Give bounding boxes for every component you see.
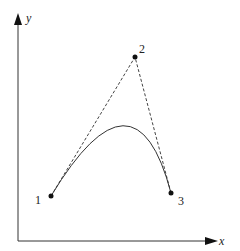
point-1-label: 1: [35, 193, 41, 207]
x-axis-arrowhead-icon: [205, 237, 218, 245]
y-axis-arrowhead-icon: [14, 13, 22, 25]
bezier-curve: [51, 126, 171, 196]
point-2-label: 2: [139, 42, 145, 56]
x-axis-label: x: [218, 234, 225, 248]
point-3-label: 3: [178, 194, 184, 208]
bezier-diagram: y x 1 2 3: [0, 0, 240, 251]
control-polygon: [51, 57, 171, 196]
y-axis-label: y: [25, 11, 32, 25]
control-point-1: [49, 194, 54, 199]
control-point-3: [169, 191, 174, 196]
control-point-2: [133, 55, 138, 60]
